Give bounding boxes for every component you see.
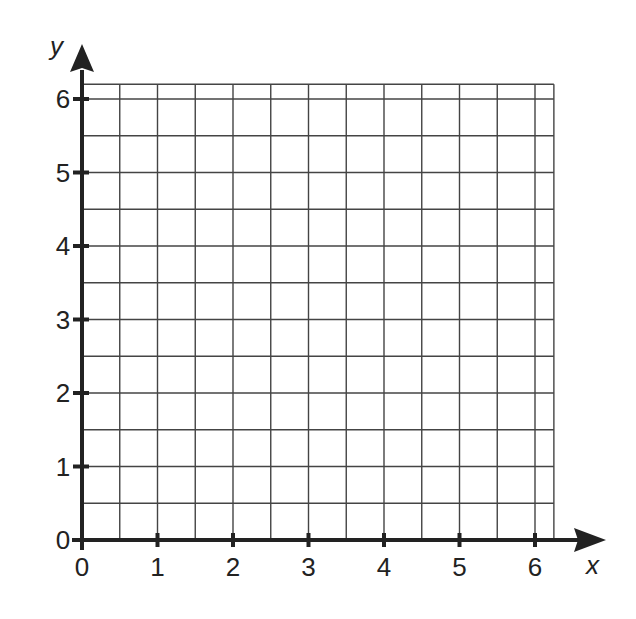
x-tick-label: 6 [528, 552, 542, 582]
y-tick-label: 1 [56, 452, 70, 482]
grid-lines [82, 84, 554, 540]
y-tick-label: 5 [56, 158, 70, 188]
x-axis-arrow-icon [574, 528, 606, 552]
x-tick-label: 5 [452, 552, 466, 582]
y-axis-label: y [48, 31, 65, 61]
y-tick-label: 4 [56, 231, 70, 261]
axes [70, 44, 606, 552]
y-axis-arrow-icon [70, 44, 94, 72]
x-tick-label: 4 [377, 552, 391, 582]
y-tick-label: 3 [56, 305, 70, 335]
y-axis-ticks: 0123456 [56, 84, 89, 555]
x-tick-label: 3 [301, 552, 315, 582]
x-tick-label: 1 [150, 552, 164, 582]
x-axis-label: x [584, 550, 600, 580]
y-tick-label: 2 [56, 378, 70, 408]
y-tick-label: 6 [56, 84, 70, 114]
x-tick-label: 2 [226, 552, 240, 582]
coordinate-grid-chart: 0123456 0123456 x y [0, 0, 636, 619]
y-tick-label: 0 [56, 525, 70, 555]
x-tick-label: 0 [75, 552, 89, 582]
